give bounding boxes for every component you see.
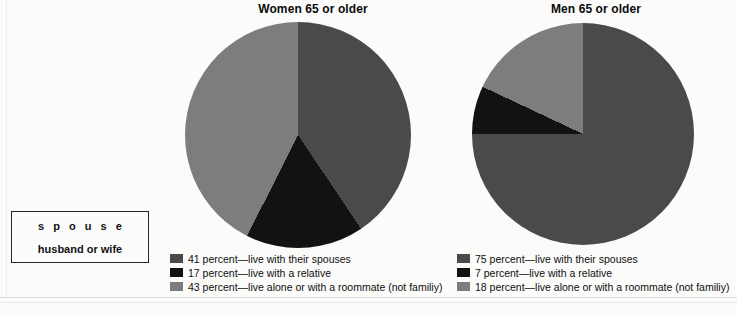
pie-chart-women — [185, 22, 411, 248]
legend-item: 17 percent—live with a relative — [170, 266, 442, 279]
legend-swatch-icon — [457, 254, 470, 263]
legend-item: 18 percent—live alone or with a roommate… — [457, 280, 729, 293]
legend-item: 75 percent—live with their spouses — [457, 252, 729, 265]
legend-item-label: 41 percent—live with their spouses — [188, 253, 351, 265]
legend-item: 41 percent—live with their spouses — [170, 252, 442, 265]
vocabulary-box: s p o u s e husband or wife — [11, 211, 149, 263]
legend-swatch-icon — [457, 268, 470, 277]
legend-item-label: 18 percent—live alone or with a roommate… — [475, 281, 729, 293]
legend-item-label: 75 percent—live with their spouses — [475, 253, 638, 265]
chart-panel-women: Women 65 or older 41 percent—live with t… — [168, 0, 458, 250]
page-edge-bottom — [0, 297, 737, 298]
legend-item-label: 17 percent—live with a relative — [188, 267, 331, 279]
legend-women: 41 percent—live with their spouses 17 pe… — [170, 252, 442, 294]
legend-men: 75 percent—live with their spouses 7 per… — [457, 252, 729, 294]
legend-item: 7 percent—live with a relative — [457, 266, 729, 279]
vocabulary-word: s p o u s e — [35, 220, 125, 232]
pie-wrap-women — [168, 18, 458, 250]
pie-chart-men — [472, 23, 694, 245]
legend-item-label: 43 percent—live alone or with a roommate… — [188, 281, 442, 293]
vocabulary-definition: husband or wife — [38, 243, 122, 255]
chart-title-men: Men 65 or older — [455, 2, 737, 18]
legend-swatch-icon — [170, 254, 183, 263]
page-edge-left — [6, 0, 7, 298]
legend-swatch-icon — [170, 268, 183, 277]
pie-wrap-men — [455, 18, 737, 250]
chart-title-women: Women 65 or older — [168, 2, 458, 18]
legend-swatch-icon — [457, 282, 470, 291]
legend-item: 43 percent—live alone or with a roommate… — [170, 280, 442, 293]
legend-swatch-icon — [170, 282, 183, 291]
chart-panel-men: Men 65 or older 75 percent—live with the… — [455, 0, 737, 250]
legend-item-label: 7 percent—live with a relative — [475, 267, 612, 279]
page-edge-bottom-secondary — [0, 302, 737, 303]
